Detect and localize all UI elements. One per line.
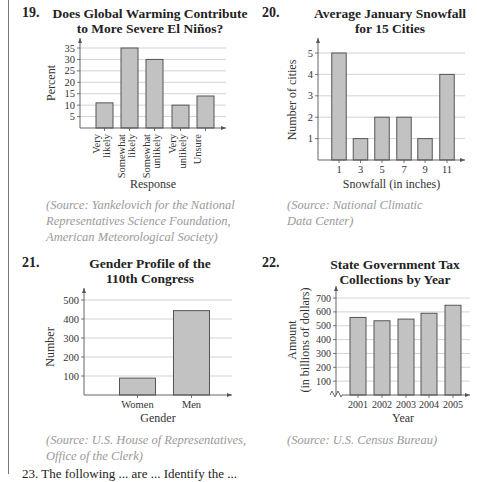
- y-axis-title-line2: (in billions of dollars): [298, 288, 312, 393]
- x-axis-arrow-icon: [221, 126, 226, 130]
- bar-2001: [350, 317, 366, 395]
- y-tick-label: 100: [63, 371, 79, 382]
- y-axis-arrow-icon: [334, 286, 338, 291]
- bar-somewhat-unlikely: [146, 59, 163, 128]
- bar-9: [418, 139, 433, 160]
- x-tick-label: 11: [442, 164, 452, 175]
- y-tick-label: 1: [308, 133, 313, 144]
- y-axis-arrow-icon: [82, 288, 86, 293]
- y-tick-label: 200: [316, 362, 331, 373]
- y-axis-title: Percent: [44, 64, 58, 101]
- bar-very-unlikely: [172, 105, 189, 128]
- x-tick-label: likely: [101, 133, 112, 158]
- x-axis-title: Year: [392, 411, 414, 425]
- x-tick-label: unlikely: [151, 133, 162, 168]
- y-tick-label: 4: [308, 69, 314, 80]
- y-tick-label: 30: [65, 54, 76, 65]
- x-tick-label: 3: [358, 164, 363, 175]
- bar-men: [174, 311, 210, 395]
- x-tick-label: 9: [422, 164, 427, 175]
- x-axis-arrow-icon: [227, 393, 232, 397]
- y-tick-label: 500: [63, 295, 79, 306]
- y-tick-label: 200: [63, 352, 79, 363]
- y-axis-title: Number: [43, 327, 57, 366]
- y-tick-label: 15: [65, 88, 76, 99]
- x-axis-title: Gender: [140, 411, 175, 425]
- y-axis-arrow-icon: [316, 38, 320, 43]
- y-axis-title: Amount: [285, 320, 299, 360]
- bar-2002: [374, 321, 390, 395]
- y-axis-arrow-icon: [78, 38, 82, 43]
- bar-2004: [421, 313, 437, 395]
- y-tick-label: 25: [65, 65, 76, 76]
- bar-somewhat-likely: [121, 48, 138, 128]
- x-tick-label: likely: [126, 133, 137, 158]
- bar-3: [353, 139, 368, 160]
- y-tick-label: 10: [65, 100, 76, 111]
- y-tick-label: 700: [316, 293, 331, 304]
- x-axis-arrow-icon: [465, 393, 470, 397]
- bar-11: [440, 74, 455, 160]
- x-tick-label: 2005: [443, 399, 463, 410]
- y-tick-label: 100: [316, 376, 331, 387]
- bar-2005: [445, 305, 461, 395]
- y-tick-label: 300: [63, 333, 79, 344]
- x-tick-label: 1: [336, 164, 341, 175]
- y-tick-label: 20: [65, 77, 76, 88]
- x-axis-arrow-icon: [460, 158, 465, 162]
- x-axis-title: Snowfall (in inches): [343, 177, 440, 191]
- x-tick-label: Men: [182, 399, 202, 410]
- y-tick-label: 400: [63, 314, 79, 325]
- x-tick-label: 2003: [396, 399, 416, 410]
- y-tick-label: 2: [308, 112, 313, 123]
- y-tick-label: 300: [316, 348, 331, 359]
- bar-1: [332, 53, 347, 160]
- bar-2003: [398, 319, 414, 395]
- y-tick-label: 400: [316, 334, 331, 345]
- bar-5: [375, 117, 390, 160]
- y-tick-label: 5: [308, 48, 313, 59]
- y-tick-label: 3: [308, 90, 313, 101]
- x-tick-label: Women: [121, 399, 154, 410]
- x-tick-label: 7: [401, 164, 406, 175]
- x-tick-label: 2002: [372, 399, 392, 410]
- x-tick-label: 2001: [348, 399, 368, 410]
- bar-unsure: [197, 96, 214, 128]
- bar-very-likely: [96, 103, 113, 128]
- x-tick-label: 2004: [419, 399, 439, 410]
- y-tick-label: 500: [316, 320, 331, 331]
- y-axis-title: Number of cities: [285, 59, 299, 140]
- y-tick-label: 5: [70, 111, 75, 122]
- x-tick-label: 5: [379, 164, 384, 175]
- x-axis-title: Response: [130, 177, 176, 191]
- bar-7: [397, 117, 412, 160]
- bar-women: [120, 378, 156, 395]
- x-tick-label: Unsure: [192, 134, 203, 165]
- y-tick-label: 600: [316, 306, 331, 317]
- x-tick-label: unlikely: [177, 133, 188, 168]
- y-tick-label: 35: [65, 43, 76, 54]
